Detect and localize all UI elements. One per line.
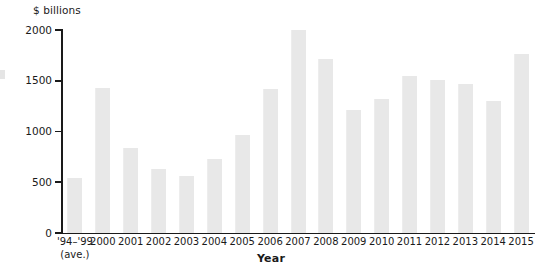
x-axis-tick-label-text: 2006 bbox=[257, 236, 282, 247]
y-axis-tick-label: 500 bbox=[8, 177, 52, 188]
bar bbox=[374, 99, 389, 233]
bar bbox=[430, 80, 445, 233]
y-axis-tick-label-wrap: 0 bbox=[0, 228, 52, 239]
bar bbox=[123, 148, 138, 233]
y-axis-tick-label-wrap: 2000 bbox=[0, 25, 52, 36]
y-axis-tick-label-wrap: 1000 bbox=[0, 126, 52, 137]
bar bbox=[95, 88, 110, 233]
y-axis-unit-label: $ billions bbox=[33, 4, 81, 16]
x-axis-tick-label-text: 2012 bbox=[425, 236, 450, 247]
y-axis-tick-label: 2000 bbox=[8, 25, 52, 36]
x-axis-tick-label-text: 2009 bbox=[341, 236, 366, 247]
x-axis-tick-label-text: 2014 bbox=[480, 236, 505, 247]
x-axis-tick-label-text: 2002 bbox=[146, 236, 171, 247]
bar bbox=[458, 84, 473, 233]
bar bbox=[318, 59, 333, 233]
x-axis-tick-label-text: 2013 bbox=[453, 236, 478, 247]
bar bbox=[263, 89, 278, 233]
bar bbox=[291, 30, 306, 233]
x-axis-tick-label: 2015 bbox=[503, 236, 539, 248]
x-axis-tick-label-text: 2003 bbox=[174, 236, 199, 247]
x-axis-tick-label-text: 2008 bbox=[313, 236, 338, 247]
y-axis-tick-label-wrap: 1500 bbox=[0, 75, 52, 86]
bar bbox=[402, 76, 417, 233]
bar bbox=[179, 176, 194, 233]
x-axis-tick-label-text: 2004 bbox=[202, 236, 227, 247]
bar-chart: $ billions 0500100015002000 '94–'99(ave.… bbox=[0, 0, 542, 274]
bar bbox=[346, 110, 361, 233]
y-axis-tick-label-wrap: 500 bbox=[0, 177, 52, 188]
bar bbox=[235, 135, 250, 233]
x-axis-tick-label-text: 2010 bbox=[369, 236, 394, 247]
bar bbox=[207, 159, 222, 233]
bar bbox=[514, 54, 529, 233]
bar bbox=[151, 169, 166, 233]
y-axis-tick-label: 1500 bbox=[8, 75, 52, 86]
y-axis-tick-label: 1000 bbox=[8, 126, 52, 137]
bars-container bbox=[61, 30, 535, 233]
x-axis-tick-label-text: 2007 bbox=[285, 236, 310, 247]
x-axis-tick-label-text: 2000 bbox=[90, 236, 115, 247]
x-axis-tick-label-text: 2005 bbox=[229, 236, 254, 247]
bar bbox=[486, 101, 501, 233]
x-axis-tick-label-text: 2011 bbox=[397, 236, 422, 247]
x-axis-tick-label-text: 2001 bbox=[118, 236, 143, 247]
y-axis-tick-label: 0 bbox=[8, 228, 52, 239]
x-axis-tick-label-text: 2015 bbox=[508, 236, 533, 247]
x-axis-title: Year bbox=[0, 252, 542, 265]
bar bbox=[67, 178, 82, 233]
